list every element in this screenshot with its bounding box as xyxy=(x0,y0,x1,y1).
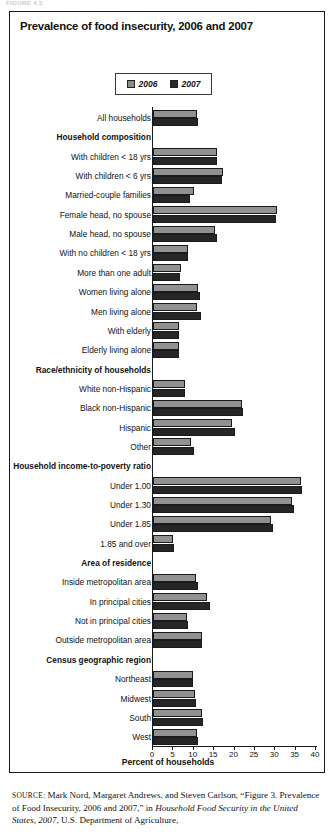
figure-number: FIGURE 4.5 xyxy=(6,0,43,6)
bar-2006 xyxy=(153,671,193,679)
bar-2006 xyxy=(153,342,179,350)
bar-2006 xyxy=(153,284,198,292)
bar-2007 xyxy=(153,486,302,494)
bar-2007 xyxy=(153,389,185,397)
bar-2007 xyxy=(153,524,273,532)
bar-2006 xyxy=(153,419,232,427)
bar-2007 xyxy=(153,234,217,242)
bar-2007 xyxy=(153,699,196,707)
bar-2006 xyxy=(153,168,223,176)
bar-2006 xyxy=(153,477,301,485)
bar-2007 xyxy=(153,350,179,358)
bar-2007 xyxy=(153,215,276,223)
bar-2007 xyxy=(153,312,201,320)
bar-2006 xyxy=(153,709,202,717)
bar-2006 xyxy=(153,206,277,214)
bar-2006 xyxy=(153,593,207,601)
bar-2007 xyxy=(153,331,179,339)
bar-2007 xyxy=(153,602,210,610)
bar-2006 xyxy=(153,264,181,272)
bar-2007 xyxy=(153,718,203,726)
bar-2007 xyxy=(153,292,200,300)
bar-2007 xyxy=(153,505,294,513)
legend-swatch-icon xyxy=(127,80,135,88)
bar-2006 xyxy=(153,535,173,543)
source-note: SOURCE: Mark Nord, Margaret Andrews, and… xyxy=(12,789,324,827)
chart-bar-row: West xyxy=(10,726,326,748)
legend-swatch-icon xyxy=(170,80,178,88)
bar-2006 xyxy=(153,245,188,253)
bar-2006 xyxy=(153,729,197,737)
figure-frame: Prevalence of food insecurity, 2006 and … xyxy=(9,11,325,773)
bar-2006 xyxy=(153,187,194,195)
bar-2006 xyxy=(153,632,202,640)
legend-item-2006: 2006 xyxy=(127,79,158,89)
bar-2007 xyxy=(153,118,198,126)
bar-2006 xyxy=(153,148,217,156)
chart-legend: 2006 2007 xyxy=(115,73,212,95)
bar-2006 xyxy=(153,110,197,118)
bar-2007 xyxy=(153,408,243,416)
bar-2007 xyxy=(153,679,193,687)
bar-2007 xyxy=(153,737,198,745)
legend-item-2007: 2007 xyxy=(170,79,201,89)
legend-label: 2006 xyxy=(139,79,158,89)
bar-2006 xyxy=(153,322,179,330)
bar-2007 xyxy=(153,157,217,165)
bar-2006 xyxy=(153,690,195,698)
bar-2006 xyxy=(153,613,187,621)
bar-2007 xyxy=(153,621,188,629)
bar-2006 xyxy=(153,303,197,311)
page-title: Prevalence of food insecurity, 2006 and … xyxy=(20,20,253,32)
x-axis-title: Percent of households xyxy=(10,757,326,767)
bar-2007 xyxy=(153,253,188,261)
category-label: West xyxy=(132,726,151,748)
bar-2006 xyxy=(153,516,271,524)
bar-2006 xyxy=(153,380,185,388)
bar-2007 xyxy=(153,447,194,455)
bar-2006 xyxy=(153,438,191,446)
bar-2007 xyxy=(153,640,202,648)
source-prefix: SOURCE: xyxy=(12,791,45,800)
bar-2006 xyxy=(153,400,242,408)
bar-2007 xyxy=(153,582,198,590)
bar-2007 xyxy=(153,428,235,436)
bar-2006 xyxy=(153,574,196,582)
source-text-2: , U.S. Department of Agriculture, xyxy=(56,815,178,825)
bar-2007 xyxy=(153,176,222,184)
bar-2007 xyxy=(153,273,180,281)
bar-2006 xyxy=(153,226,215,234)
bar-2007 xyxy=(153,195,190,203)
bar-2006 xyxy=(153,497,292,505)
legend-label: 2007 xyxy=(182,79,201,89)
chart-plot-area: 0510152025303540 All householdsHousehold… xyxy=(10,107,326,751)
bar-2007 xyxy=(153,544,174,552)
